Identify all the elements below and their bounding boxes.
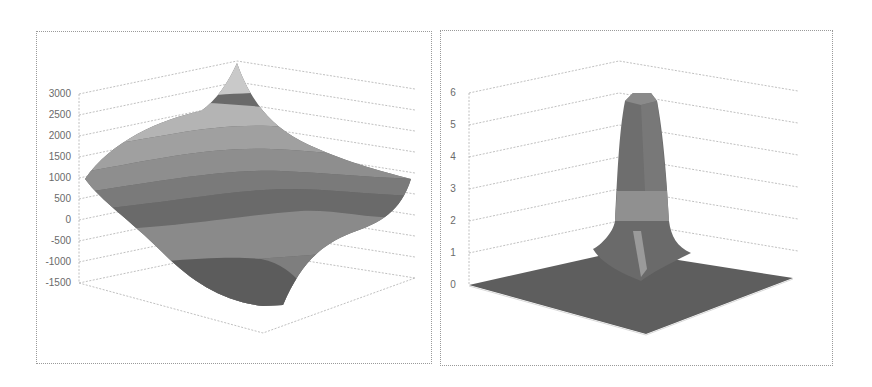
svg-text:-1500: -1500 bbox=[45, 277, 71, 288]
svg-text:2: 2 bbox=[450, 215, 456, 226]
svg-text:3000: 3000 bbox=[49, 88, 72, 99]
svg-text:0: 0 bbox=[65, 214, 71, 225]
svg-text:500: 500 bbox=[54, 193, 71, 204]
chart-right-frame: 6 5 4 3 2 1 0 bbox=[440, 30, 833, 366]
svg-text:-1000: -1000 bbox=[45, 256, 71, 267]
surface-chart-right: 6 5 4 3 2 1 0 bbox=[441, 31, 834, 367]
left-axis-ticks: 3000 2500 2000 1500 1000 500 0 -500 -100… bbox=[45, 88, 71, 288]
svg-text:1000: 1000 bbox=[49, 172, 72, 183]
svg-text:4: 4 bbox=[450, 151, 456, 162]
svg-text:1: 1 bbox=[450, 247, 456, 258]
svg-text:2000: 2000 bbox=[49, 130, 72, 141]
svg-text:5: 5 bbox=[450, 119, 456, 130]
right-axis-ticks: 6 5 4 3 2 1 0 bbox=[450, 87, 456, 290]
svg-text:2500: 2500 bbox=[49, 109, 72, 120]
right-surface bbox=[469, 93, 793, 335]
svg-text:6: 6 bbox=[450, 87, 456, 98]
svg-text:0: 0 bbox=[450, 279, 456, 290]
chart-left-frame: 3000 2500 2000 1500 1000 500 0 -500 -100… bbox=[36, 31, 432, 364]
svg-text:1500: 1500 bbox=[49, 151, 72, 162]
surface-chart-left: 3000 2500 2000 1500 1000 500 0 -500 -100… bbox=[37, 32, 433, 365]
svg-text:3: 3 bbox=[450, 183, 456, 194]
svg-text:-500: -500 bbox=[51, 235, 71, 246]
